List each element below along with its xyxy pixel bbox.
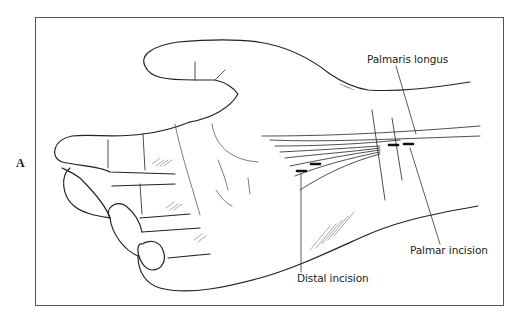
hand-illustration [0,0,521,319]
hatching [152,84,354,250]
tendons [262,126,480,190]
middle-finger [62,168,175,218]
callout-palmaris-longus: Palmaris longus [367,53,448,65]
callout-distal-incision: Distal incision [297,272,369,284]
index-finger [55,122,190,174]
ring-finger [108,204,200,256]
palm-creases [175,124,258,215]
callout-palmar-incision: Palmar incision [410,244,488,256]
